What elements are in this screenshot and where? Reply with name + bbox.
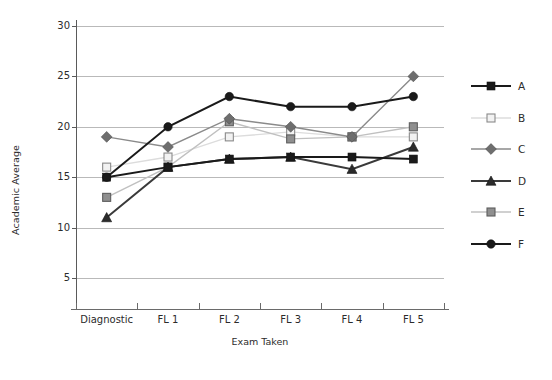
legend-label-E: E	[518, 207, 525, 217]
x-tick-mark	[199, 303, 200, 310]
y-tick-label: 5	[30, 273, 70, 283]
data-point-F	[348, 102, 356, 110]
x-tick-mark	[383, 303, 384, 310]
plot-area	[76, 26, 444, 303]
data-point-F	[164, 123, 172, 131]
legend-marker-F-icon	[470, 237, 512, 251]
line-chart: Academic Average 51015202530 DiagnosticF…	[0, 0, 552, 380]
series-A	[103, 153, 418, 181]
y-tick-label: 15	[30, 172, 70, 182]
series-line-B	[107, 132, 414, 167]
legend-item-F[interactable]: F	[470, 236, 546, 252]
data-point-B	[225, 133, 233, 141]
legend-label-A: A	[518, 81, 525, 91]
data-point-F	[286, 102, 294, 110]
y-tick-label: 25	[30, 71, 70, 81]
x-axis-title: Exam Taken	[76, 336, 444, 347]
legend-marker-D-icon	[470, 174, 512, 188]
legend-marker-E-icon	[470, 205, 512, 219]
legend-marker-A-icon	[470, 79, 512, 93]
y-axis-title: Academic Average	[0, 0, 30, 380]
legend-marker-C-icon	[470, 142, 512, 156]
x-tick-label: FL 4	[342, 314, 363, 325]
x-tick-mark	[444, 303, 445, 310]
legend-marker-B-icon	[470, 111, 512, 125]
y-tick-label: 10	[30, 223, 70, 233]
data-point-B	[409, 133, 417, 141]
data-point-A	[225, 155, 233, 163]
x-axis-tick-labels: DiagnosticFL 1FL 2FL 3FL 4FL 5	[76, 314, 444, 334]
legend-item-C[interactable]: C	[470, 141, 546, 157]
legend-item-A[interactable]: A	[470, 78, 546, 94]
data-point-A	[287, 153, 295, 161]
data-point-E	[103, 193, 111, 201]
x-tick-mark	[321, 303, 322, 310]
data-point-E	[409, 123, 417, 131]
x-tick-mark	[260, 303, 261, 310]
x-tick-mark	[137, 303, 138, 310]
x-tick-label: FL 1	[158, 314, 179, 325]
y-tick-label: 30	[30, 21, 70, 31]
legend-label-B: B	[518, 113, 525, 123]
data-point-F	[102, 173, 110, 181]
y-tick-label: 20	[30, 122, 70, 132]
data-point-A	[164, 163, 172, 171]
legend-item-B[interactable]: B	[470, 110, 546, 126]
data-point-F	[225, 92, 233, 100]
x-tick-label: FL 5	[403, 314, 424, 325]
data-point-C	[163, 142, 174, 153]
legend-label-D: D	[518, 176, 526, 186]
x-tick-label: Diagnostic	[80, 314, 133, 325]
data-point-B	[164, 153, 172, 161]
legend-item-D[interactable]: D	[470, 173, 546, 189]
legend-label-F: F	[518, 239, 524, 249]
legend-item-E[interactable]: E	[470, 204, 546, 220]
x-tick-label: FL 2	[219, 314, 240, 325]
data-point-C	[101, 131, 112, 142]
data-point-B	[103, 163, 111, 171]
data-point-E	[287, 135, 295, 143]
x-tick-mark	[76, 303, 77, 310]
data-point-F	[409, 92, 417, 100]
data-point-D	[408, 142, 418, 151]
x-tick-label: FL 3	[280, 314, 301, 325]
y-axis-tick-labels: 51015202530	[30, 0, 70, 380]
series-C	[101, 71, 418, 152]
series-layer	[76, 26, 444, 303]
legend-label-C: C	[518, 144, 525, 154]
data-point-A	[348, 153, 356, 161]
data-point-A	[409, 155, 417, 163]
legend: ABCDEF	[470, 78, 546, 258]
series-D	[102, 142, 419, 222]
